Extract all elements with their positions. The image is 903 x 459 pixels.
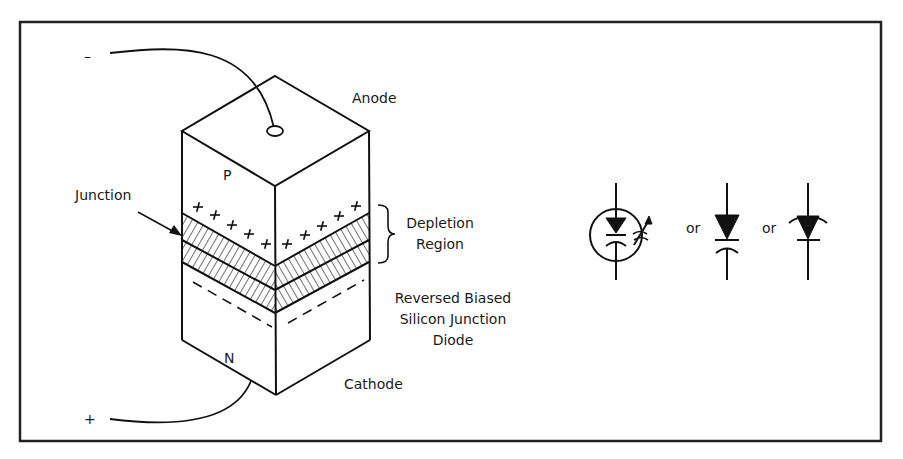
caption-line3: Diode: [388, 332, 518, 349]
depletion-region-label: Depletion Region: [400, 215, 480, 253]
anode-label: Anode: [352, 90, 397, 107]
plus-terminal-label: +: [84, 411, 96, 428]
n-region-label: N: [224, 350, 234, 367]
varactor-symbol-curved: [789, 183, 827, 280]
cathode-label: Cathode: [344, 376, 403, 393]
or-label-2: or: [762, 220, 776, 237]
junction-label: Junction: [75, 187, 131, 204]
minus-terminal-label: –: [84, 48, 91, 65]
or-label-1: or: [686, 220, 700, 237]
anode-contact: [267, 126, 283, 136]
caption-line1: Reversed Biased: [388, 290, 518, 307]
caption-line2: Silicon Junction: [388, 311, 518, 328]
depletion-line1: Depletion: [400, 215, 480, 232]
junction-arrow: [138, 212, 182, 236]
cathode-wire: [110, 381, 251, 422]
anode-wire: [110, 49, 274, 128]
varactor-symbol-capacitor: [715, 183, 739, 280]
diagram-caption: Reversed Biased Silicon Junction Diode: [388, 290, 518, 349]
depletion-line2: Region: [400, 236, 480, 253]
p-region-label: P: [223, 167, 231, 184]
depletion-brace: [378, 205, 395, 263]
varactor-symbol-circled: [590, 183, 652, 280]
